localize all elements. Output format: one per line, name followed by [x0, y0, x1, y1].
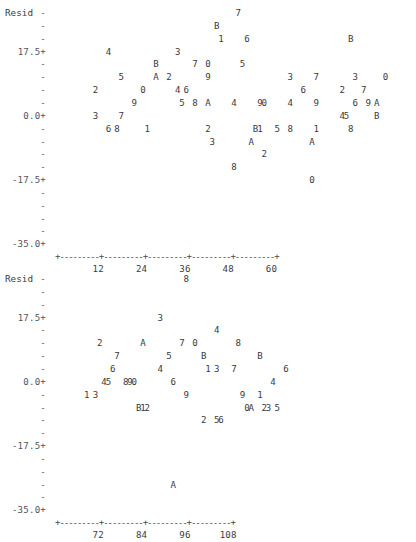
plot-point: 1 [218, 34, 224, 44]
y-axis-tick-minor: - [0, 415, 46, 425]
plot-point: 2 [339, 85, 345, 95]
x-axis-tick-label: 108 [219, 530, 237, 540]
plot-point: 4 [287, 98, 293, 108]
plot-point: 0 [140, 85, 146, 95]
plot-point: 3 [352, 72, 358, 82]
plot-point: A [140, 338, 146, 348]
plot-point: 6 [283, 364, 289, 374]
plot-point: 5 [240, 59, 246, 69]
y-axis-tick-label: 0.0+ [0, 111, 46, 121]
plot-point: 6 [352, 98, 358, 108]
plot-point: 9 [132, 98, 138, 108]
plot-point: 2 [201, 415, 207, 425]
x-axis-tick-label: 72 [89, 530, 107, 540]
y-axis-tick-minor: - [0, 300, 46, 310]
plot-point: A [171, 480, 177, 490]
plot-point: 8 [348, 124, 354, 134]
y-axis-tick-minor: - [0, 72, 46, 82]
plot-point: 5 [166, 351, 172, 361]
plot-point: B [348, 34, 354, 44]
y-axis-tick-minor: - [0, 351, 46, 361]
plot-point: 2 [145, 403, 151, 413]
y-axis-tick-label: -17.5+ [0, 175, 46, 185]
y-axis-tick-minor: - [0, 21, 46, 31]
plot-point: 2 [166, 72, 172, 82]
y-axis-tick-minor: - [0, 428, 46, 438]
plot-point: 3 [214, 364, 220, 374]
plot-point: 6 [244, 34, 250, 44]
plot-point: 6 [106, 124, 112, 134]
plot-point: 7 [192, 59, 198, 69]
plot-point: 9 [365, 98, 371, 108]
plot-point: 7 [179, 338, 185, 348]
y-axis-tick-label: 17.5+ [0, 47, 46, 57]
plot-point: 9 [205, 72, 211, 82]
plot-point: 5 [275, 124, 281, 134]
y-axis-tick-minor: - [0, 287, 46, 297]
y-axis-tick-minor: - [0, 403, 46, 413]
plot-point: A [374, 98, 380, 108]
plot-point: 3 [210, 137, 216, 147]
plot-point: 9 [184, 390, 190, 400]
y-axis-tick-minor: - [0, 137, 46, 147]
plot-point: 7 [119, 111, 125, 121]
plot-point: B [201, 351, 207, 361]
plot-point: B [374, 111, 380, 121]
character-plot-page: Resid---17.5+----0.0+-----17.5+-----35.0… [0, 0, 416, 542]
plot-point: 4 [214, 325, 220, 335]
plot-point: 3 [93, 390, 99, 400]
plot-point: 6 [184, 85, 190, 95]
plot-point: A [153, 72, 159, 82]
y-axis-tick-minor: - [0, 480, 46, 490]
plot-point: 7 [361, 85, 367, 95]
plot-point: 1 [257, 390, 263, 400]
y-axis-tick-minor: - [0, 325, 46, 335]
plot-point: 0 [262, 98, 268, 108]
plot-point: 8 [114, 124, 120, 134]
plot-point: 6 [218, 415, 224, 425]
plot-point: 9 [313, 98, 319, 108]
x-axis-line: +---------+---------+---------+---------… [55, 252, 279, 262]
y-axis-tick-minor: - [0, 364, 46, 374]
x-axis-tick-label: 84 [133, 530, 151, 540]
plot-point: 8 [236, 338, 242, 348]
plot-point: 6 [300, 85, 306, 95]
y-axis-tick-minor: - [0, 162, 46, 172]
plot-point: 3 [175, 47, 181, 57]
plot-point: 8 [192, 98, 198, 108]
plot-point: 0 [205, 59, 211, 69]
y-axis-tick-label: -35.0+ [0, 505, 46, 515]
plot-point: 5 [179, 98, 185, 108]
plot-point: 0 [383, 72, 389, 82]
residual-plot-panel-2: Resid---17.5+----0.0+-----17.5+-----35.0… [0, 266, 416, 542]
y-axis-tick-label: 17.5+ [0, 313, 46, 323]
y-axis-tick-minor: - [0, 34, 46, 44]
residual-plot-panel-1: Resid---17.5+----0.0+-----17.5+-----35.0… [0, 0, 416, 266]
plot-point: 4 [231, 98, 237, 108]
y-axis-tick-minor: - [0, 124, 46, 134]
plot-point: 3 [158, 313, 164, 323]
panel-1-grid: Resid---17.5+----0.0+-----17.5+-----35.0… [0, 0, 416, 266]
y-axis-tick-minor: - [0, 338, 46, 348]
y-axis-tick-minor: - [0, 214, 46, 224]
plot-point: B [257, 351, 263, 361]
y-axis-tick-label: 0.0+ [0, 377, 46, 387]
plot-point: 0 [132, 377, 138, 387]
plot-point: A [309, 137, 315, 147]
plot-point: 1 [145, 124, 151, 134]
plot-point: 2 [262, 149, 268, 159]
plot-point: 6 [171, 377, 177, 387]
y-axis-tick-label: -17.5+ [0, 441, 46, 451]
plot-point: A [249, 403, 255, 413]
plot-point: 5 [275, 403, 281, 413]
y-axis-tick-minor: - [0, 8, 46, 18]
plot-point: 3 [93, 111, 99, 121]
plot-point: 9 [240, 390, 246, 400]
plot-point: 2 [93, 85, 99, 95]
plot-point: 1 [313, 124, 319, 134]
y-axis-tick-minor: - [0, 492, 46, 502]
plot-point: 5 [119, 72, 125, 82]
plot-point: 2 [97, 338, 103, 348]
y-axis-tick-minor: - [0, 274, 46, 284]
y-axis-tick-minor: - [0, 98, 46, 108]
